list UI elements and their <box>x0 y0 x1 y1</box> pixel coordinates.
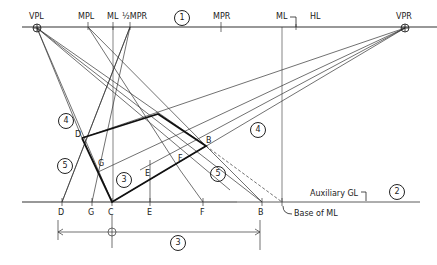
step-4-right-badge: 4 <box>250 122 266 138</box>
point-b-label: B <box>206 137 212 145</box>
ml-label-left: ML <box>107 13 118 21</box>
step-1-badge: 1 <box>174 10 190 26</box>
perspective-diagram: VPL MPL ML ½MPR 1 MPR ML HL VPR D B G E … <box>0 0 437 265</box>
base-of-ml-label: Base of ML <box>294 210 338 218</box>
ground-b-label: B <box>258 209 264 217</box>
point-d-label: D <box>75 131 81 139</box>
half-mpr-label: ½MPR <box>122 13 147 21</box>
step-2-badge: 2 <box>389 184 405 200</box>
ground-f-label: F <box>200 209 205 217</box>
ground-c-label: C <box>108 209 114 217</box>
diagram-lines <box>0 0 437 265</box>
step-5-right-badge: 5 <box>210 166 226 182</box>
auxiliary-gl-label: Auxiliary GL <box>310 190 358 198</box>
step-5-left-badge: 5 <box>57 158 73 174</box>
point-e-label: E <box>145 170 150 178</box>
mpr-label: MPR <box>213 13 230 21</box>
vpr-label: VPR <box>396 13 412 21</box>
vpl-label: VPL <box>29 13 44 21</box>
step-3-bottom-badge: 3 <box>170 235 186 251</box>
ground-g-label: G <box>88 209 94 217</box>
hl-label: HL <box>310 13 320 21</box>
step-3-inner-badge: 3 <box>116 172 132 188</box>
ground-d-label: D <box>58 209 64 217</box>
step-4-left-badge: 4 <box>58 113 74 129</box>
point-f-label: F <box>178 155 183 163</box>
mpl-label: MPL <box>78 13 94 21</box>
ground-e-label: E <box>147 209 152 217</box>
point-g-label: G <box>98 160 104 168</box>
ml-label-right: ML <box>276 13 287 21</box>
